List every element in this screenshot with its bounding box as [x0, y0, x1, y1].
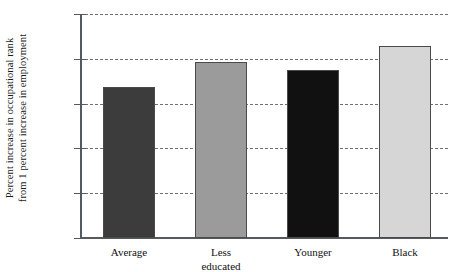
bar-average: [103, 87, 155, 238]
y-axis-title: Percent increase in occupational rank fr…: [0, 0, 40, 245]
x-tick-label: Average: [111, 246, 147, 260]
x-tick-label-line: Black: [392, 246, 418, 258]
y-tick-mark: [74, 104, 86, 105]
y-axis-line: [80, 14, 82, 238]
y-tick-mark: [74, 148, 86, 149]
y-axis-title-line-1: Percent increase in occupational rank: [3, 9, 16, 227]
y-axis-title-text: Percent increase in occupational rank fr…: [3, 9, 39, 227]
x-tick-label-line: Less: [211, 246, 231, 258]
y-tick-mark: [74, 238, 86, 239]
x-tick-label-line: Average: [111, 246, 147, 258]
y-tick-mark: [74, 193, 86, 194]
y-tick-mark: [74, 59, 86, 60]
bar-younger: [287, 70, 339, 238]
x-tick-label: Lesseducated: [201, 246, 240, 272]
plot-area: 0.0000.0500.1000.1500.2000.250 AverageLe…: [80, 14, 448, 238]
bar-less-educated: [195, 62, 247, 238]
bar-chart-figure: Percent increase in occupational rank fr…: [0, 0, 456, 272]
x-tick-label-line: Younger: [294, 246, 331, 258]
y-tick-mark: [74, 14, 86, 15]
bar-black: [379, 46, 431, 238]
x-tick-label-line: educated: [201, 260, 240, 272]
x-tick-label: Black: [392, 246, 418, 260]
y-axis-title-line-2: from 1 percent increase in employment: [16, 9, 29, 227]
x-tick-label: Younger: [294, 246, 331, 260]
gridline: [80, 14, 448, 15]
